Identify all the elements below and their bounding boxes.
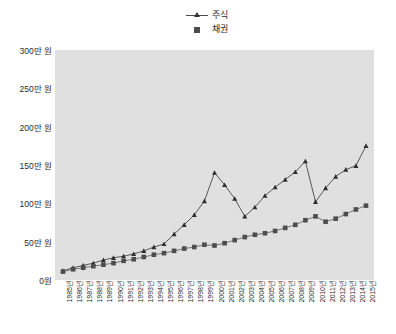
x-axis-tick-label: 2010년 — [319, 281, 326, 303]
x-axis-tick-label: 1985년 — [66, 281, 73, 303]
y-axis-tick-label: 0원 — [39, 274, 52, 286]
data-point-marker — [333, 174, 338, 179]
data-point-marker — [303, 159, 308, 164]
data-point-marker — [152, 252, 157, 257]
data-point-marker — [131, 257, 136, 262]
x-axis-tick-label: 2004년 — [258, 281, 265, 303]
x-axis-tick-label: 1990년 — [117, 281, 124, 303]
data-point-marker — [364, 203, 369, 208]
data-point-marker — [71, 267, 76, 272]
plot-area — [55, 50, 374, 280]
y-axis-tick-label: 150만 원 — [19, 159, 52, 171]
x-axis-tick-label: 1988년 — [96, 281, 103, 303]
series-layer — [55, 50, 374, 280]
data-point-marker — [202, 242, 207, 247]
x-axis-tick-label: 2006년 — [278, 281, 285, 303]
data-point-marker — [232, 238, 237, 243]
x-axis-tick-label: 1991년 — [127, 281, 134, 303]
y-axis-tick-label: 100만 원 — [19, 197, 52, 209]
y-axis-tick-label: 200만 원 — [19, 121, 52, 133]
x-axis-tick-label: 1996년 — [177, 281, 184, 303]
x-axis-tick-label: 1987년 — [86, 281, 93, 303]
x-axis-tick-label: 1999년 — [207, 281, 214, 303]
x-axis-tick-label: 1989년 — [106, 281, 113, 303]
data-point-marker — [192, 245, 197, 250]
x-axis-tick-label: 1986년 — [76, 281, 83, 303]
data-point-marker — [243, 235, 248, 240]
x-axis-tick-labels: 1985년1986년1987년1988년1989년1990년1991년1992년… — [55, 281, 374, 334]
x-axis-tick-label: 1998년 — [197, 281, 204, 303]
series-stocks — [61, 143, 369, 273]
data-point-marker — [364, 143, 369, 148]
data-point-marker — [293, 223, 298, 228]
x-axis-tick-label: 2008년 — [298, 281, 305, 303]
x-axis-tick-label: 2013년 — [349, 281, 356, 303]
plot-wrapper: 0원50만 원100만 원150만 원200만 원250만 원300만 원 19… — [0, 0, 396, 334]
data-point-marker — [202, 199, 207, 204]
data-point-marker — [212, 243, 217, 248]
x-axis-tick-label: 2007년 — [288, 281, 295, 303]
x-axis-tick-label: 2012년 — [339, 281, 346, 303]
y-axis-tick-labels: 0원50만 원100만 원150만 원200만 원250만 원300만 원 — [4, 0, 52, 334]
data-point-marker — [344, 212, 349, 217]
x-axis-tick-label: 1992년 — [137, 281, 144, 303]
data-point-marker — [303, 218, 308, 223]
x-axis-tick-label: 1995년 — [167, 281, 174, 303]
x-axis-tick-label: 2014년 — [359, 281, 366, 303]
data-point-marker — [353, 163, 358, 168]
x-axis-tick-label: 1994년 — [157, 281, 164, 303]
x-axis-tick-label: 2009년 — [308, 281, 315, 303]
data-point-marker — [81, 265, 86, 270]
data-point-marker — [121, 259, 126, 264]
data-point-marker — [354, 207, 359, 212]
data-point-marker — [212, 170, 217, 175]
data-point-marker — [111, 261, 116, 266]
data-point-marker — [162, 251, 167, 256]
data-point-marker — [313, 214, 318, 219]
x-axis-tick-label: 2000년 — [218, 281, 225, 303]
y-axis-tick-label: 250만 원 — [19, 82, 52, 94]
data-point-marker — [91, 264, 96, 269]
data-point-marker — [333, 216, 338, 221]
data-point-marker — [283, 226, 288, 231]
chart-container: 주식 채권 0원50만 원100만 원150만 원200만 원250만 원300… — [0, 0, 396, 334]
series-bonds — [61, 203, 369, 274]
data-point-marker — [172, 249, 177, 254]
data-point-marker — [222, 241, 227, 246]
x-axis-tick-label: 1993년 — [147, 281, 154, 303]
data-point-marker — [101, 262, 106, 267]
data-point-marker — [61, 269, 66, 274]
y-axis-tick-label: 50만 원 — [24, 236, 52, 248]
y-axis-tick-label: 300만 원 — [19, 44, 52, 56]
x-axis-tick-label: 1997년 — [187, 281, 194, 303]
x-axis-tick-label: 2015년 — [369, 281, 376, 303]
data-point-marker — [182, 246, 187, 251]
data-point-marker — [253, 232, 258, 237]
x-axis-tick-label: 2001년 — [228, 281, 235, 303]
x-axis-tick-label: 2003년 — [248, 281, 255, 303]
data-point-marker — [142, 255, 147, 260]
data-point-marker — [273, 229, 278, 234]
data-point-marker — [323, 219, 328, 224]
data-point-marker — [263, 231, 268, 236]
x-axis-tick-label: 2011년 — [329, 281, 336, 302]
x-axis-tick-label: 2002년 — [238, 281, 245, 303]
x-axis-tick-label: 2005년 — [268, 281, 275, 303]
